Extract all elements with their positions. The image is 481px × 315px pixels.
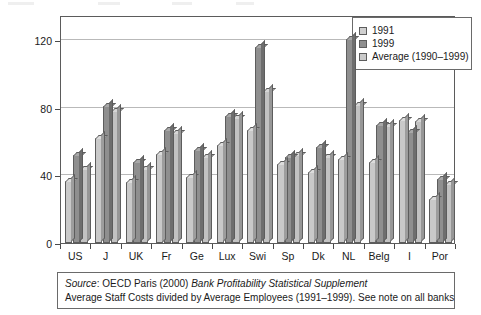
bar bbox=[186, 177, 193, 243]
y-axis-tick-label: 40 bbox=[18, 171, 52, 181]
bar bbox=[126, 182, 133, 243]
bar-side-face bbox=[170, 123, 174, 242]
bar-side-face bbox=[208, 150, 212, 242]
source-note-box: Source: OECD Paris (2000) Bank Profitabi… bbox=[57, 272, 455, 309]
bar-side-face bbox=[178, 126, 182, 242]
source-publication-title: Bank Profitability Statistical Supplemen… bbox=[191, 278, 367, 289]
x-axis-tick-label: Lux bbox=[219, 250, 236, 262]
bar-side-face bbox=[352, 32, 356, 242]
bar-group bbox=[152, 17, 182, 243]
legend-item: Average (1990–1999) bbox=[359, 51, 465, 62]
source-label: Source bbox=[65, 278, 97, 289]
bar-group bbox=[183, 17, 213, 243]
bar-side-face bbox=[231, 109, 235, 242]
source-line-1: Source: OECD Paris (2000) Bank Profitabi… bbox=[65, 277, 447, 291]
bar-side-face bbox=[299, 148, 303, 242]
y-axis-tick-mark bbox=[55, 109, 60, 110]
bar-side-face bbox=[147, 162, 151, 242]
y-axis-tick-label: 0 bbox=[18, 239, 52, 249]
chart-legend: 1991 1999 Average (1990–1999) bbox=[352, 17, 472, 70]
x-axis-tick-mark bbox=[182, 244, 183, 249]
bar-side-face bbox=[71, 174, 75, 242]
x-axis-tick-mark bbox=[394, 244, 395, 249]
x-axis: USJUKFrGeLuxSwiSpDkNLBelgIPor bbox=[60, 244, 455, 266]
bar bbox=[247, 130, 254, 243]
bar bbox=[156, 154, 163, 244]
bar-side-face bbox=[322, 140, 326, 242]
legend-label: Average (1990–1999) bbox=[372, 51, 469, 62]
y-axis-tick-label: 80 bbox=[18, 104, 52, 114]
bar bbox=[95, 138, 102, 243]
x-axis-tick-mark bbox=[242, 244, 243, 249]
bar-side-face bbox=[162, 147, 166, 243]
bar-side-face bbox=[291, 150, 295, 242]
bar-group bbox=[122, 17, 152, 243]
bar bbox=[338, 159, 345, 243]
bar-side-face bbox=[101, 131, 105, 242]
x-axis-tick-label: Belg bbox=[369, 250, 390, 262]
y-axis-tick-mark bbox=[55, 41, 60, 42]
bar-side-face bbox=[330, 150, 334, 242]
x-axis-tick-mark bbox=[273, 244, 274, 249]
bar-side-face bbox=[405, 113, 409, 242]
bar bbox=[399, 120, 406, 243]
bar-side-face bbox=[140, 155, 144, 242]
scan-artifact bbox=[172, 2, 192, 5]
bar-side-face bbox=[269, 84, 273, 242]
legend-item: 1991 bbox=[359, 25, 465, 36]
x-axis-tick-mark bbox=[60, 244, 61, 249]
x-axis-tick-label: I bbox=[408, 250, 411, 262]
x-axis-tick-mark bbox=[151, 244, 152, 249]
legend-item: 1999 bbox=[359, 38, 465, 49]
source-middle: : OECD Paris (2000) bbox=[97, 278, 191, 289]
bar-side-face bbox=[443, 172, 447, 242]
x-axis-tick-label: Swi bbox=[249, 250, 266, 262]
y-axis-tick-mark bbox=[55, 176, 60, 177]
legend-label: 1999 bbox=[372, 38, 394, 49]
bar bbox=[277, 164, 284, 243]
x-axis-tick-label: Sp bbox=[281, 250, 294, 262]
x-axis-tick-mark bbox=[212, 244, 213, 249]
x-axis-tick-label: NL bbox=[342, 250, 355, 262]
source-line-2: Average Staff Costs divided by Average E… bbox=[65, 291, 447, 305]
x-axis-tick-mark bbox=[364, 244, 365, 249]
bar-group bbox=[61, 17, 91, 243]
bar-side-face bbox=[413, 125, 417, 242]
x-axis-tick-mark bbox=[425, 244, 426, 249]
legend-swatch-icon bbox=[359, 27, 367, 35]
bar-side-face bbox=[79, 148, 83, 242]
bar-side-face bbox=[117, 104, 121, 242]
x-axis-tick-label: Por bbox=[432, 250, 448, 262]
bar-side-face bbox=[421, 114, 425, 242]
x-axis-tick-label: Ge bbox=[190, 250, 204, 262]
bar-side-face bbox=[109, 99, 113, 242]
x-axis-tick-mark bbox=[303, 244, 304, 249]
bar-chart-figure: 04080120 Costs per Employee (Thousands) … bbox=[0, 0, 481, 315]
bar-group bbox=[243, 17, 273, 243]
bar-side-face bbox=[451, 177, 455, 242]
bar bbox=[429, 199, 436, 243]
bar-side-face bbox=[314, 165, 318, 242]
x-axis-tick-label: UK bbox=[129, 250, 144, 262]
bar bbox=[308, 172, 315, 243]
bar-side-face bbox=[383, 118, 387, 242]
bar-group bbox=[91, 17, 121, 243]
scan-artifact bbox=[98, 2, 120, 5]
bar-group bbox=[274, 17, 304, 243]
legend-swatch-icon bbox=[359, 40, 367, 48]
bar bbox=[217, 145, 224, 243]
bar-side-face bbox=[284, 157, 288, 242]
bar-side-face bbox=[239, 111, 243, 242]
x-axis-tick-mark bbox=[333, 244, 334, 249]
bar-group bbox=[304, 17, 334, 243]
bar-side-face bbox=[87, 162, 91, 242]
x-axis-tick-label: US bbox=[68, 250, 83, 262]
bar-side-face bbox=[344, 152, 348, 242]
bar bbox=[369, 162, 376, 243]
x-axis-tick-mark bbox=[121, 244, 122, 249]
bar-side-face bbox=[132, 175, 136, 242]
bar-side-face bbox=[193, 170, 197, 242]
bar-side-face bbox=[200, 143, 204, 242]
scan-artifact bbox=[236, 2, 254, 5]
bar-side-face bbox=[360, 98, 364, 242]
